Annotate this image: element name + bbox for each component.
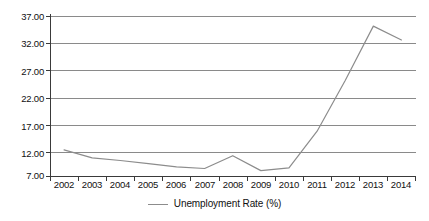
x-tick-label: 2003: [82, 179, 102, 190]
y-tick-label: 37.00: [0, 12, 44, 22]
x-tick-label: 2005: [138, 179, 158, 190]
y-tick-label: 22.00: [0, 94, 44, 104]
x-tick-label: 2007: [195, 179, 215, 190]
x-tick-label: 2010: [279, 179, 299, 190]
legend-line-swatch-icon: [148, 204, 168, 205]
chart-legend: Unemployment Rate (%): [0, 198, 429, 210]
y-tick-label: 32.00: [0, 39, 44, 49]
x-tick-label: 2009: [251, 179, 271, 190]
line-chart-figure: 37.00 32.00 27.00 22.00 17.00 12.00 7.00: [0, 0, 429, 221]
x-tick-label: 2002: [54, 179, 74, 190]
gridlines: [50, 17, 416, 153]
x-tick-label: 2012: [335, 179, 355, 190]
x-tick-label: 2006: [166, 179, 186, 190]
x-tick-label: 2014: [391, 179, 411, 190]
y-tick-label: 27.00: [0, 67, 44, 77]
x-tick-label: 2013: [363, 179, 383, 190]
x-tick-label: 2008: [223, 179, 243, 190]
x-tick-label: 2004: [110, 179, 130, 190]
y-tick-marks: [46, 17, 50, 177]
y-tick-label: 12.00: [0, 149, 44, 159]
plot-area: 37.00 32.00 27.00 22.00 17.00 12.00 7.00: [0, 0, 429, 190]
plot-canvas: [0, 0, 429, 190]
y-tick-label: 7.00: [0, 171, 44, 181]
y-tick-label: 17.00: [0, 122, 44, 132]
legend-label: Unemployment Rate (%): [174, 198, 281, 210]
x-tick-label: 2011: [307, 179, 327, 190]
